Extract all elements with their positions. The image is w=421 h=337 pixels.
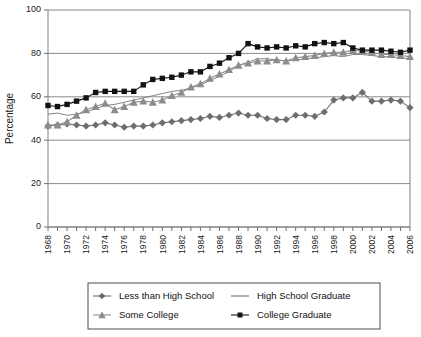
- data-point-marker: [140, 122, 147, 129]
- data-point-marker: [350, 45, 355, 50]
- data-point-marker: [159, 119, 166, 126]
- ytick-label-60: 60: [31, 91, 41, 101]
- xtick-label-1968: 1968: [43, 235, 53, 254]
- data-point-marker: [264, 45, 269, 50]
- data-point-marker: [235, 109, 242, 116]
- data-point-marker: [236, 51, 241, 56]
- legend-label: Some College: [119, 309, 179, 320]
- data-point-marker: [264, 115, 271, 122]
- xtick-label-1992: 1992: [272, 235, 282, 254]
- data-point-marker: [369, 47, 374, 52]
- education-percentage-line-chart: 0204060801001968197019721974197619781980…: [0, 0, 421, 337]
- data-point-marker: [83, 122, 90, 129]
- data-point-marker: [149, 121, 156, 128]
- data-point-marker: [206, 74, 214, 81]
- data-point-marker: [111, 106, 119, 113]
- legend-label: College Graduate: [257, 309, 331, 320]
- data-point-marker: [245, 41, 250, 46]
- data-point-marker: [292, 112, 299, 119]
- data-point-marker: [331, 41, 336, 46]
- data-point-marker: [238, 313, 243, 318]
- legend-label: High School Graduate: [257, 290, 350, 301]
- data-point-marker: [312, 41, 317, 46]
- data-point-marker: [215, 70, 223, 77]
- data-point-marker: [398, 50, 403, 55]
- data-point-marker: [101, 99, 109, 106]
- data-point-marker: [311, 113, 318, 120]
- data-point-marker: [206, 113, 213, 120]
- data-point-marker: [187, 116, 194, 123]
- data-point-marker: [273, 116, 280, 123]
- data-point-marker: [407, 47, 412, 52]
- xtick-label-2000: 2000: [348, 235, 358, 254]
- legend-label: Less than High School: [119, 290, 214, 301]
- data-point-marker: [255, 44, 260, 49]
- data-point-marker: [225, 112, 232, 119]
- data-point-marker: [216, 114, 223, 121]
- data-point-marker: [168, 118, 175, 125]
- xtick-label-1978: 1978: [138, 235, 148, 254]
- xtick-label-1990: 1990: [253, 235, 263, 254]
- data-point-marker: [283, 45, 288, 50]
- data-point-marker: [73, 111, 81, 118]
- data-point-marker: [63, 118, 71, 125]
- xtick-label-1986: 1986: [215, 235, 225, 254]
- data-point-marker: [378, 98, 385, 105]
- data-point-marker: [74, 98, 79, 103]
- data-point-marker: [169, 75, 174, 80]
- data-point-marker: [387, 96, 394, 103]
- data-point-marker: [397, 98, 404, 105]
- data-point-marker: [283, 116, 290, 123]
- data-point-marker: [45, 103, 50, 108]
- data-point-marker: [121, 124, 128, 131]
- xtick-label-1996: 1996: [310, 235, 320, 254]
- ytick-label-100: 100: [26, 4, 41, 14]
- data-point-marker: [341, 40, 346, 45]
- data-point-marker: [102, 119, 109, 126]
- data-point-marker: [141, 82, 146, 87]
- xtick-label-2006: 2006: [405, 235, 415, 254]
- data-point-marker: [168, 92, 176, 99]
- data-point-marker: [293, 43, 298, 48]
- data-point-marker: [349, 94, 356, 101]
- xtick-label-1988: 1988: [234, 235, 244, 254]
- ytick-label-20: 20: [31, 178, 41, 188]
- data-point-marker: [197, 115, 204, 122]
- y-axis-title: Percentage: [4, 92, 15, 144]
- xtick-label-1972: 1972: [81, 235, 91, 254]
- chart-container: 0204060801001968197019721974197619781980…: [0, 0, 421, 337]
- xtick-label-1984: 1984: [196, 235, 206, 254]
- data-point-marker: [73, 121, 80, 128]
- xtick-label-1974: 1974: [100, 235, 110, 254]
- data-point-marker: [93, 90, 98, 95]
- data-point-marker: [150, 77, 155, 82]
- data-point-marker: [188, 69, 193, 74]
- xtick-label-2002: 2002: [367, 235, 377, 254]
- data-point-marker: [179, 72, 184, 77]
- ytick-label-0: 0: [36, 221, 41, 231]
- xtick-label-1994: 1994: [291, 235, 301, 254]
- data-point-marker: [122, 89, 127, 94]
- data-point-marker: [112, 89, 117, 94]
- data-point-marker: [340, 94, 347, 101]
- data-point-marker: [244, 112, 251, 119]
- ytick-label-40: 40: [31, 135, 41, 145]
- data-point-marker: [92, 103, 100, 110]
- ytick-label-80: 80: [31, 48, 41, 58]
- data-point-marker: [82, 106, 90, 113]
- data-point-marker: [178, 117, 185, 124]
- data-point-marker: [388, 49, 393, 54]
- data-point-marker: [254, 112, 261, 119]
- xtick-label-1976: 1976: [119, 235, 129, 254]
- data-point-marker: [111, 121, 118, 128]
- data-point-marker: [198, 69, 203, 74]
- data-point-marker: [360, 47, 365, 52]
- data-point-marker: [102, 89, 107, 94]
- data-point-marker: [379, 47, 384, 52]
- xtick-label-1982: 1982: [177, 235, 187, 254]
- xtick-label-1998: 1998: [329, 235, 339, 254]
- data-point-marker: [160, 76, 165, 81]
- data-point-marker: [92, 121, 99, 128]
- data-point-marker: [64, 102, 69, 107]
- data-point-marker: [406, 104, 413, 111]
